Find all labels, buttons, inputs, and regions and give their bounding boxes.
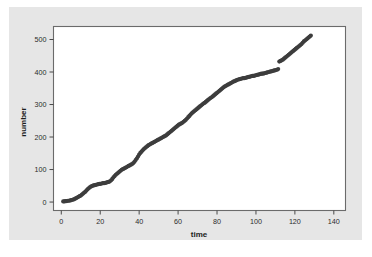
x-tick-label: 0	[59, 217, 63, 226]
y-tick-label: 100	[35, 165, 47, 174]
x-tick-label: 140	[328, 217, 340, 226]
y-tick-label: 300	[35, 100, 47, 109]
data-point	[276, 67, 280, 71]
y-tick-label: 0	[43, 198, 47, 207]
scatter-chart: 020406080100120140 0100200300400500 time…	[0, 0, 372, 257]
figure-root: 020406080100120140 0100200300400500 time…	[0, 0, 372, 257]
y-axis-ticks: 0100200300400500	[35, 35, 54, 207]
data-point	[309, 34, 313, 38]
x-tick-label: 60	[174, 217, 182, 226]
x-axis-ticks: 020406080100120140	[59, 211, 340, 226]
x-tick-label: 80	[213, 217, 221, 226]
x-axis-title: time	[191, 230, 208, 239]
y-tick-label: 500	[35, 35, 47, 44]
y-axis-title: number	[19, 107, 28, 136]
y-tick-label: 200	[35, 133, 47, 142]
x-tick-label: 100	[250, 217, 262, 226]
x-tick-label: 20	[96, 217, 104, 226]
x-tick-label: 40	[135, 217, 143, 226]
y-tick-label: 400	[35, 68, 47, 77]
x-tick-label: 120	[289, 217, 301, 226]
